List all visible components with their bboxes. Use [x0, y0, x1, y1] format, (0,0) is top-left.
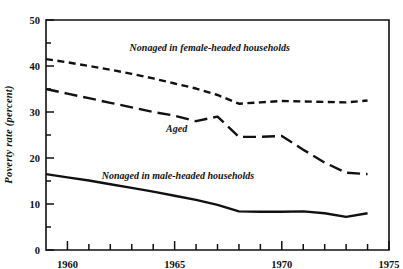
y-tick-label: 10 — [30, 199, 41, 210]
y-tick-label: 50 — [30, 15, 41, 26]
x-tick-label: 1970 — [271, 259, 292, 269]
y-axis-ticks: 01020304050 — [30, 15, 55, 256]
data-series-group — [46, 59, 368, 217]
x-tick-label: 1965 — [164, 259, 185, 269]
series-annotation-0: Nonaged in female-headed households — [129, 42, 290, 53]
x-axis-ticks: 1960196519701975 — [57, 241, 400, 269]
x-tick-label: 1975 — [379, 259, 400, 269]
x-tick-label: 1960 — [57, 259, 78, 269]
series-annotation-2: Nonaged in male-headed households — [101, 170, 255, 181]
y-tick-label: 40 — [30, 61, 41, 72]
poverty-rate-line-chart: Poverty rate (percent) 01020304050 19601… — [0, 0, 403, 269]
series-annotations: Nonaged in female-headed householdsAgedN… — [101, 42, 290, 181]
y-axis-title-text: Poverty rate (percent) — [3, 85, 14, 183]
y-tick-label: 30 — [30, 107, 41, 118]
y-tick-label: 0 — [35, 245, 40, 256]
series-annotation-1: Aged — [165, 123, 188, 134]
y-axis-title: Poverty rate (percent) — [0, 0, 18, 269]
y-tick-label: 20 — [30, 153, 41, 164]
chart-canvas: 01020304050 1960196519701975 Nonaged in … — [0, 0, 403, 269]
series-line-0 — [46, 59, 368, 104]
